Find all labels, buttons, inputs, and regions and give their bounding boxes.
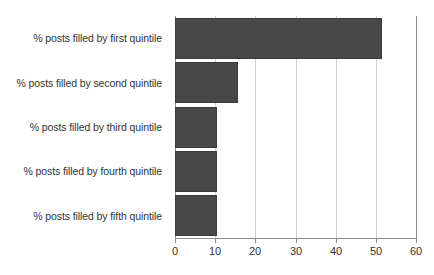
bar-row [175,194,416,238]
bar-row [175,16,416,60]
tick-mark-0 [175,238,176,243]
x-axis-ticks [175,238,416,243]
category-label-first-quintile: % posts filled by first quintile [33,32,162,44]
x-tick-label-0: 0 [172,245,178,257]
x-tick-label-20: 20 [249,245,261,257]
x-tick-label-60: 60 [410,245,422,257]
x-tick-label-40: 40 [330,245,342,257]
category-label-fourth-quintile: % posts filled by fourth quintile [23,165,162,177]
tick-mark-60 [416,238,417,243]
bar-row [175,149,416,193]
bar-fifth-quintile [175,195,217,236]
bar-row [175,105,416,149]
category-axis: % posts filled by first quintile % posts… [0,16,168,238]
bar-first-quintile [175,18,382,59]
plot-area [175,16,416,238]
tick-mark-40 [336,238,337,243]
category-label-row: % posts filled by third quintile [0,105,168,149]
gridline-60 [416,16,417,238]
bar-chart: % posts filled by first quintile % posts… [0,0,434,275]
bar-row [175,60,416,104]
category-label-second-quintile: % posts filled by second quintile [16,77,162,89]
tick-mark-30 [296,238,297,243]
x-tick-label-10: 10 [209,245,221,257]
category-label-row: % posts filled by fourth quintile [0,149,168,193]
category-label-third-quintile: % posts filled by third quintile [30,121,162,133]
category-label-fifth-quintile: % posts filled by fifth quintile [33,210,162,222]
bar-third-quintile [175,107,217,148]
category-label-row: % posts filled by first quintile [0,16,168,60]
x-tick-label-50: 50 [370,245,382,257]
tick-mark-50 [376,238,377,243]
x-axis-tick-labels: 0102030405060 [175,245,416,265]
category-label-row: % posts filled by fifth quintile [0,194,168,238]
category-label-row: % posts filled by second quintile [0,60,168,104]
bar-second-quintile [175,62,238,103]
x-tick-label-30: 30 [290,245,302,257]
bar-fourth-quintile [175,151,217,192]
tick-mark-10 [215,238,216,243]
tick-mark-20 [255,238,256,243]
bars-layer [175,16,416,238]
